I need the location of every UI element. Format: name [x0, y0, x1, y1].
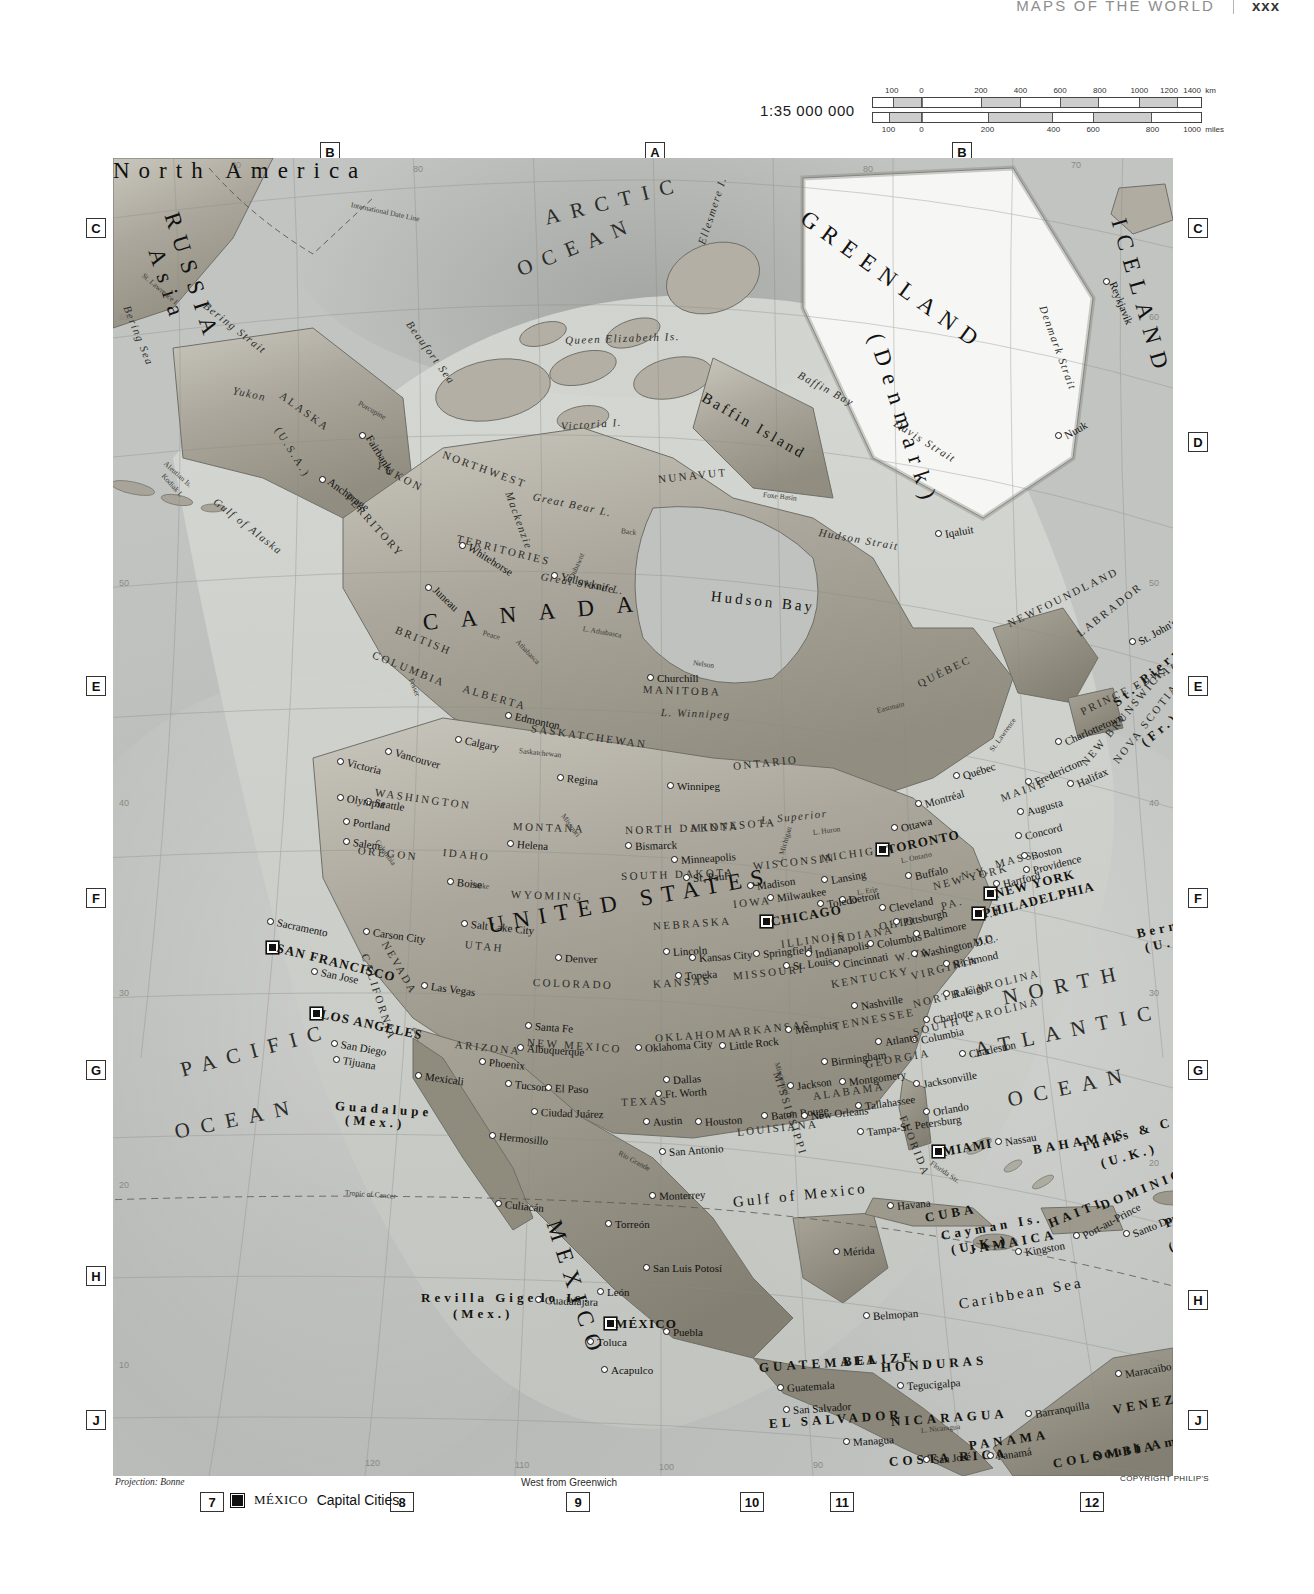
city-symbol-baton-rouge: [761, 1112, 768, 1119]
city-symbol-nassau: [995, 1138, 1002, 1145]
scale-ticks-miles: 100 0 200 400 600 800 1000 miles: [872, 125, 1202, 136]
coord-left-10: 10: [119, 1360, 129, 1370]
city-symbol-boise: [447, 878, 454, 885]
gridref-right-f[interactable]: F: [1188, 888, 1208, 908]
city-symbol-charleston: [959, 1050, 966, 1057]
city-symbol-springfield: [753, 950, 760, 957]
city-symbol-havana: [887, 1202, 894, 1209]
city-symbol-churchill: [647, 674, 654, 681]
map-canvas[interactable]: ARCTICOCEANPACIFICOCEANNORTHATLANTICOCEA…: [113, 158, 1173, 1476]
city-symbol-las-vegas: [421, 982, 428, 989]
central-america-landmass: [753, 1358, 993, 1476]
city-symbol-barranquilla: [1025, 1410, 1032, 1417]
city-symbol-el-paso: [545, 1084, 552, 1091]
city-symbol-san-antonio: [659, 1148, 666, 1155]
coord-left-30: 30: [119, 988, 129, 998]
iceland-landmass: [1111, 184, 1173, 234]
coord-left-50: 50: [119, 578, 129, 588]
coord-top-70b: 70: [1071, 160, 1081, 170]
coord-top-70a: 70: [231, 160, 241, 170]
gridref-bottom-9[interactable]: 9: [566, 1492, 590, 1512]
jamaica-island: [973, 1234, 1017, 1250]
gridref-left-j[interactable]: J: [86, 1410, 106, 1430]
city-symbol-guadalajara: [535, 1296, 542, 1303]
city-symbol-washington-d-c: [911, 950, 918, 957]
city-symbol-st-john-s: [1129, 638, 1136, 645]
gridref-left-h[interactable]: H: [86, 1266, 106, 1286]
coord-left-20: 20: [119, 1180, 129, 1190]
city-symbol-buffalo: [905, 872, 912, 879]
gridref-right-h[interactable]: H: [1188, 1290, 1208, 1310]
city-symbol-albuquerque: [517, 1044, 524, 1051]
city-symbol-carson-city: [363, 928, 370, 935]
city-symbol-santo-domingo: [1123, 1230, 1130, 1237]
city-symbol-concord: [1015, 832, 1022, 839]
city-symbol-boston: [1021, 852, 1028, 859]
gridref-right-j[interactable]: J: [1188, 1410, 1208, 1430]
scale-bar-graphic-km: [872, 97, 1202, 108]
scale-bar-graphic-miles: [872, 112, 1202, 123]
coord-right-30: 30: [1149, 988, 1159, 998]
gridref-bottom-7[interactable]: 7: [200, 1492, 224, 1512]
gridref-left-g[interactable]: G: [86, 1060, 106, 1080]
city-symbol-tucson: [505, 1080, 512, 1087]
city-symbol-columbia: [911, 1036, 918, 1043]
gridref-left-c[interactable]: C: [86, 218, 106, 238]
city-symbol-houston: [695, 1118, 702, 1125]
gridref-right-c[interactable]: C: [1188, 218, 1208, 238]
city-symbol-san-jose: [311, 968, 318, 975]
city-symbol-richmond: [943, 960, 950, 967]
coord-bottom-100: 100: [659, 1462, 674, 1472]
gridref-left-f[interactable]: F: [86, 888, 106, 908]
coord-right-50: 50: [1149, 578, 1159, 588]
atlas-page: MAPS OF THE WORLD xxx 1:35 000 000 100 0…: [0, 0, 1314, 1594]
city-symbol-managua: [843, 1438, 850, 1445]
gridref-bottom-12[interactable]: 12: [1080, 1492, 1104, 1512]
city-symbol-toledo: [817, 900, 824, 907]
map-viewport[interactable]: ARCTICOCEANPACIFICOCEANNORTHATLANTICOCEA…: [113, 158, 1173, 1476]
city-symbol-phoenix: [479, 1058, 486, 1065]
gridref-left-e[interactable]: E: [86, 676, 106, 696]
city-symbol-birmingham: [821, 1058, 828, 1065]
copyright-note: COPYRIGHT PHILIP'S: [1120, 1474, 1209, 1483]
coord-right-40: 40: [1149, 798, 1159, 808]
city-symbol-tallahassee: [855, 1102, 862, 1109]
city-symbol-maracaibo: [1115, 1370, 1122, 1377]
coord-top-80b: 80: [863, 164, 873, 174]
city-symbol-raleigh: [943, 990, 950, 997]
city-symbol-anchorage: [319, 476, 326, 483]
gridref-right-g[interactable]: G: [1188, 1060, 1208, 1080]
legend-capital-description: Capital Cities: [317, 1492, 399, 1508]
city-symbol-lincoln: [663, 948, 670, 955]
city-symbol-portland: [343, 818, 350, 825]
city-symbol-toluca: [587, 1338, 594, 1345]
landmass-layer: [113, 158, 1173, 1476]
capital-city-symbol-icon: [232, 1495, 243, 1506]
gridref-right-d[interactable]: D: [1188, 432, 1208, 452]
city-symbol-mexicali: [415, 1072, 422, 1079]
city-symbol-edmonton: [505, 712, 512, 719]
scale-bar-km: 100 0 200 400 600 800 1000 1200 1400 km: [872, 86, 1202, 108]
gridref-bottom-10[interactable]: 10: [740, 1492, 764, 1512]
city-symbol-m-rida: [833, 1248, 840, 1255]
city-symbol-san-luis-potos: [643, 1264, 650, 1271]
city-symbol-charlottetown: [1055, 738, 1062, 745]
russia-landmass: [113, 158, 273, 328]
city-symbol-kansas-city: [689, 954, 696, 961]
city-symbol-salem: [343, 838, 350, 845]
city-symbol-indianapolis: [805, 950, 812, 957]
city-symbol-guatemala: [777, 1384, 784, 1391]
city-symbol-sacramento: [267, 918, 274, 925]
city-symbol-hermosillo: [489, 1132, 496, 1139]
city-symbol-halifax: [1067, 780, 1074, 787]
city-symbol-helena: [507, 840, 514, 847]
city-symbol-bismarck: [625, 842, 632, 849]
coord-bottom-90: 90: [813, 1460, 823, 1470]
coord-left-60: 60: [119, 312, 129, 322]
gridref-right-e[interactable]: E: [1188, 676, 1208, 696]
coord-top-80a: 80: [413, 164, 423, 174]
city-symbol-milwaukee: [767, 894, 774, 901]
city-symbol-monterrey: [649, 1192, 656, 1199]
scale-block: 1:35 000 000 100 0 200 400 600 800 1000 …: [760, 78, 1200, 140]
gridref-bottom-11[interactable]: 11: [830, 1492, 854, 1512]
